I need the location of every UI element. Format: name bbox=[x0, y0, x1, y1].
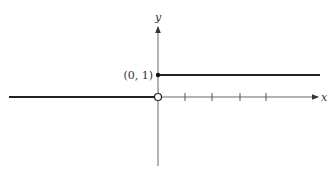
step-function-graph: y x (0, 1) bbox=[0, 0, 334, 175]
closed-endpoint-dot bbox=[156, 73, 160, 77]
y-axis-label: y bbox=[154, 11, 162, 24]
open-endpoint-circle bbox=[155, 94, 162, 101]
x-axis-label: x bbox=[321, 91, 328, 104]
point-label: (0, 1) bbox=[123, 69, 153, 82]
graph-canvas: y x (0, 1) bbox=[0, 0, 334, 175]
